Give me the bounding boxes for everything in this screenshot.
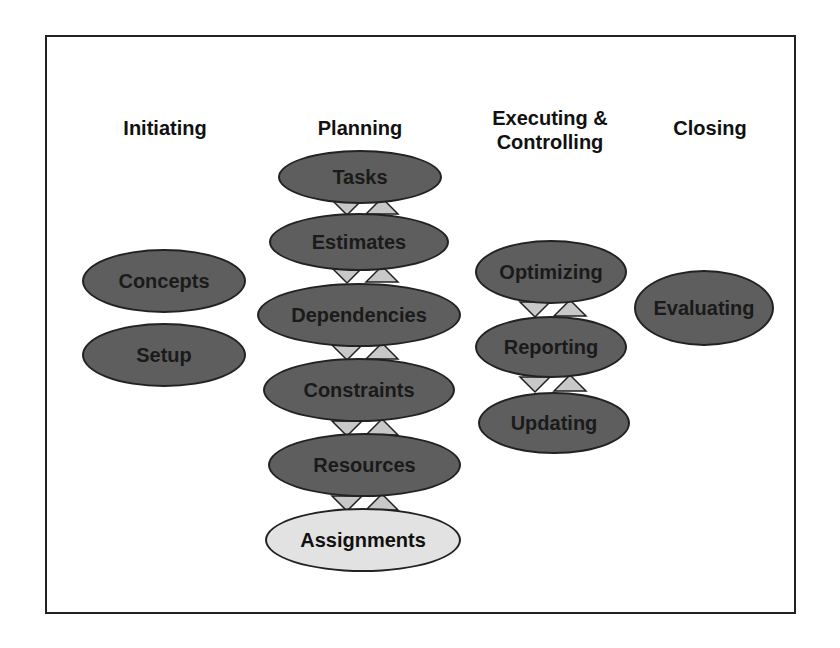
node-concepts: Concepts bbox=[82, 249, 246, 313]
node-optimizing: Optimizing bbox=[475, 240, 627, 304]
node-resources: Resources bbox=[268, 433, 461, 497]
node-assignments: Assignments bbox=[265, 508, 461, 572]
node-estimates: Estimates bbox=[269, 213, 449, 271]
node-constraints: Constraints bbox=[263, 358, 455, 422]
node-reporting: Reporting bbox=[475, 316, 627, 378]
node-setup: Setup bbox=[82, 323, 246, 387]
node-updating: Updating bbox=[478, 392, 630, 454]
node-dependencies: Dependencies bbox=[257, 283, 461, 347]
node-tasks: Tasks bbox=[278, 150, 442, 204]
node-evaluating: Evaluating bbox=[634, 270, 774, 346]
